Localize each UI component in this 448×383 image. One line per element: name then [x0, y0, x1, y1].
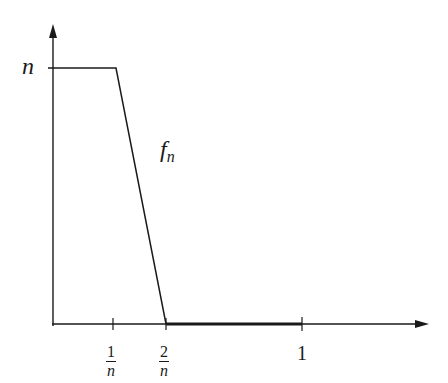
tick-label-numerator: 1	[106, 344, 116, 362]
tick-label-denominator: n	[107, 362, 115, 379]
tick-label-denominator: n	[160, 362, 168, 379]
graph-canvas	[0, 0, 448, 383]
x-axis-arrow-icon	[415, 320, 429, 328]
tick-label-numerator: 2	[159, 344, 169, 362]
function-graph: n fn 1 n 2 n 1	[0, 0, 448, 383]
function-label: fn	[160, 137, 175, 161]
function-curve	[48, 68, 166, 324]
tick-label-1: 1	[297, 343, 307, 363]
tick-label-1-over-n: 1 n	[106, 344, 116, 379]
y-axis-arrow-icon	[49, 24, 57, 38]
tick-label-2-over-n: 2 n	[159, 344, 169, 379]
function-name: f	[160, 136, 167, 162]
function-subscript: n	[167, 148, 175, 165]
y-level-label: n	[22, 54, 34, 78]
